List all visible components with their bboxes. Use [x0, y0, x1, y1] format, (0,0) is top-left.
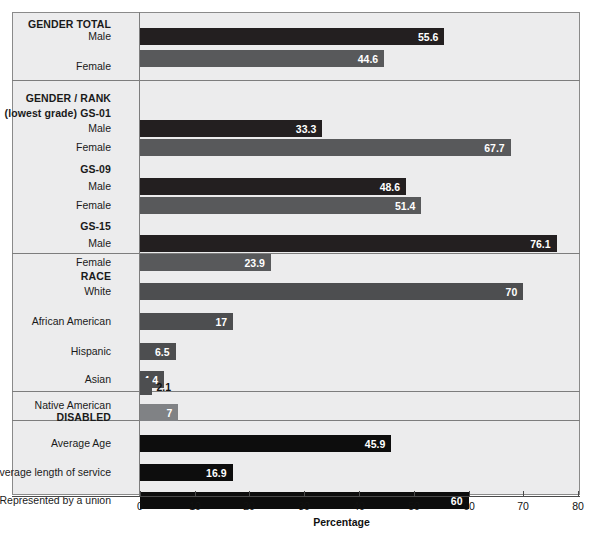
row-label: Average length of service: [0, 466, 111, 478]
bar-value-label: 67.7: [484, 142, 504, 153]
row-label: Female: [0, 60, 111, 72]
bar-average-length-of-service[interactable]: 16.9: [140, 464, 233, 481]
x-tick-label-70: 70: [517, 500, 529, 512]
x-tick-50: [414, 491, 415, 497]
section-heading-label-line2: (lowest grade) GS-01: [0, 107, 111, 119]
row-label: Asian: [0, 373, 111, 385]
x-tick-label-0: 0: [137, 500, 143, 512]
x-tick-20: [249, 491, 250, 497]
section-heading-label: DISABLED: [0, 411, 111, 423]
bar-value-label: 17: [215, 316, 227, 327]
bar-value-label: 70: [506, 286, 518, 297]
section-divider-gender-rank: [12, 80, 580, 81]
row-label: Female: [0, 199, 111, 211]
bar-chart: GENDER TOTAL Male 55.6 Female 44.6 GENDE…: [0, 0, 603, 538]
section-heading-label: GENDER TOTAL: [0, 18, 111, 30]
x-tick-label-60: 60: [463, 500, 475, 512]
x-tick-60: [469, 491, 470, 497]
section-divider-race: [12, 253, 580, 254]
row-label: Male: [0, 180, 111, 192]
x-tick-label-30: 30: [298, 500, 310, 512]
x-tick-0: [140, 491, 141, 497]
x-tick-30: [304, 491, 305, 497]
bar-gs15-male[interactable]: 76.1: [140, 235, 557, 252]
x-tick-10: [195, 491, 196, 497]
x-axis-title: Percentage: [0, 516, 603, 528]
row-label: Male: [0, 237, 111, 249]
x-axis-line: [12, 496, 580, 497]
row-label: White: [0, 285, 111, 297]
bar-value-label: 44.6: [358, 53, 378, 64]
bar-value-label: 16.9: [206, 467, 226, 478]
bar-value-label: 33.3: [296, 123, 316, 134]
section-divider-disabled: [12, 391, 580, 392]
bar-race-white[interactable]: 70: [140, 283, 523, 300]
bar-value-label: 2.1: [157, 381, 172, 392]
x-tick-80: [578, 491, 579, 497]
bar-gs01-female[interactable]: 67.7: [140, 139, 511, 156]
row-label: Male: [0, 122, 111, 134]
bar-gs09-male[interactable]: 48.6: [140, 178, 406, 195]
x-tick-label-10: 10: [189, 500, 201, 512]
x-tick-label-20: 20: [243, 500, 255, 512]
x-tick-label-50: 50: [408, 500, 420, 512]
x-tick-label-80: 80: [572, 500, 584, 512]
bar-value-label: 48.6: [380, 181, 400, 192]
row-label: Average Age: [0, 437, 111, 449]
bar-value-label: 6.5: [155, 346, 170, 357]
bar-value-label: 76.1: [530, 238, 550, 249]
bar-value-label: 51.4: [395, 200, 415, 211]
bar-value-label: 55.6: [418, 31, 438, 42]
bar-race-african-american[interactable]: 17: [140, 313, 233, 330]
bar-gender-total-female[interactable]: 44.6: [140, 50, 384, 67]
bar-gs15-female[interactable]: 23.9: [140, 254, 271, 271]
bar-value-label: 45.9: [365, 438, 385, 449]
x-tick-40: [359, 491, 360, 497]
bar-gs09-female[interactable]: 51.4: [140, 197, 421, 214]
row-label: Native American: [0, 399, 111, 411]
subsection-heading-label: GS-15: [0, 220, 111, 232]
x-tick-label-40: 40: [353, 500, 365, 512]
bar-average-age[interactable]: 45.9: [140, 435, 391, 452]
row-label: Hispanic: [0, 345, 111, 357]
bar-gender-total-male[interactable]: 55.6: [140, 28, 444, 45]
bar-value-label: 7: [166, 407, 172, 418]
section-heading-label: RACE: [0, 270, 111, 282]
row-label: Female: [0, 256, 111, 268]
bar-gs01-male[interactable]: 33.3: [140, 120, 322, 137]
bar-race-native-american[interactable]: 2.1: [140, 378, 152, 395]
subsection-heading-label: GS-09: [0, 163, 111, 175]
row-label: Male: [0, 30, 111, 42]
bar-value-label: 23.9: [244, 257, 264, 268]
row-label: Female: [0, 141, 111, 153]
bar-disabled[interactable]: 7: [140, 404, 178, 421]
row-label: African American: [0, 315, 111, 327]
bar-race-hispanic[interactable]: 6.5: [140, 343, 176, 360]
x-tick-70: [523, 491, 524, 497]
section-heading-label-line1: GENDER / RANK: [0, 92, 111, 104]
